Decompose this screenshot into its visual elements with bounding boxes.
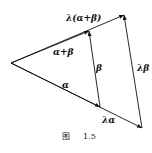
vector-diagram: λ(α+β) α+β β λβ α λα 图 1.5	[0, 0, 152, 153]
label-lambda-beta: λβ	[136, 63, 149, 73]
label-alpha: α	[62, 80, 69, 90]
label-beta: β	[95, 63, 102, 73]
vector-alpha-plus-beta	[11, 31, 89, 63]
vector-alpha	[11, 63, 100, 107]
caption-number: 1.5	[83, 132, 96, 141]
label-lambda-alpha-plus-beta: λ(α+β)	[65, 13, 101, 23]
label-alpha-plus-beta: α+β	[53, 47, 73, 57]
label-lambda-alpha: λα	[101, 115, 115, 125]
caption-prefix: 图	[62, 132, 70, 141]
